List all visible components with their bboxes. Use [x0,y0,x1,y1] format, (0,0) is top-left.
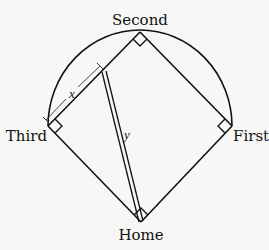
outfield-arc [48,30,232,126]
second-to-first-line [140,32,232,126]
first-right-angle-marker [218,119,225,133]
diagram-svg: Second Third First Home x y [0,0,269,250]
x-variable-label: x [68,86,75,101]
third-base-label: Third [6,127,48,145]
y-segment-line-a [102,72,139,222]
third-to-second-line [48,32,140,126]
third-right-angle-marker [55,119,62,133]
first-to-home-line [141,126,232,222]
second-right-angle-marker [133,39,147,46]
second-base-label: Second [112,11,168,29]
baseball-diamond-diagram: Second Third First Home x y [0,0,269,250]
home-plate-label: Home [118,226,163,244]
y-segment-line-b [106,71,143,221]
first-base-label: First [233,127,269,145]
y-variable-label: y [122,127,130,142]
